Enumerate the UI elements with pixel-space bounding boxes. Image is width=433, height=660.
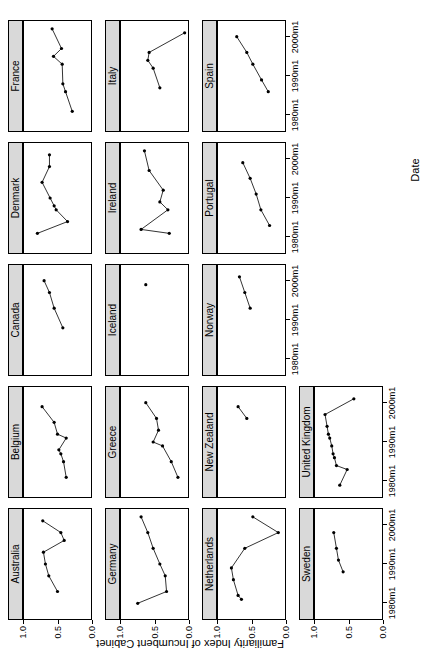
series-line <box>238 407 247 419</box>
panel-iceland: Iceland <box>105 264 189 376</box>
data-point <box>235 35 238 38</box>
series-plot <box>218 265 285 375</box>
data-point <box>335 547 338 550</box>
x-axis-tick-label: 1980m1 <box>387 587 397 620</box>
data-point <box>148 169 151 172</box>
y-axis-tick-label: 0.0 <box>281 626 291 639</box>
data-point <box>168 232 171 235</box>
data-point <box>61 82 64 85</box>
y-axis-tick-label: 1.0 <box>115 626 125 639</box>
data-point <box>158 200 161 203</box>
data-point <box>166 208 169 211</box>
data-point <box>61 63 64 66</box>
x-axis-tick-label: 1980m1 <box>290 221 300 254</box>
y-axis-tick-label: 0.5 <box>150 626 160 639</box>
series-line <box>138 517 167 603</box>
series-line <box>37 155 67 234</box>
series-plot <box>121 265 188 375</box>
series-plot <box>24 143 91 253</box>
plot-area <box>217 386 286 498</box>
x-axis-title: Date <box>409 158 421 181</box>
y-axis-tick <box>155 620 156 624</box>
data-point <box>65 436 68 439</box>
data-point <box>259 208 262 211</box>
data-point <box>152 67 155 70</box>
data-point <box>255 192 258 195</box>
data-point <box>53 204 56 207</box>
data-point <box>144 401 147 404</box>
panel-australia: Australia <box>8 508 92 620</box>
panel-strip-label: Germany <box>108 543 118 584</box>
data-point <box>52 55 55 58</box>
y-axis-tick-label: 0.0 <box>87 626 97 639</box>
data-point <box>325 425 328 428</box>
data-point <box>170 460 173 463</box>
data-point <box>65 476 68 479</box>
data-point <box>62 460 65 463</box>
panel-germany: Germany <box>105 508 189 620</box>
data-point <box>165 590 168 593</box>
data-point <box>136 602 139 605</box>
data-point <box>328 436 331 439</box>
panel-strip-label: Portugal <box>205 179 215 216</box>
y-axis-tick <box>314 620 315 624</box>
data-point <box>240 598 243 601</box>
x-axis-tick-label: 2000m1 <box>290 21 300 54</box>
x-axis-col-5: 1980m11990m12000m1 <box>286 21 304 131</box>
y-axis-tick <box>92 620 93 624</box>
data-point <box>331 452 334 455</box>
data-point <box>41 519 44 522</box>
series-plot <box>121 143 188 253</box>
panel-greece: Greece <box>105 386 189 498</box>
panel-strip-spain: Spain <box>202 20 217 132</box>
data-point <box>237 405 240 408</box>
data-point <box>230 566 233 569</box>
series-line <box>148 33 185 88</box>
series-plot <box>121 509 188 619</box>
series-plot <box>24 265 91 375</box>
data-point <box>56 433 59 436</box>
data-point <box>327 433 330 436</box>
x-axis-tick-label: 1990m1 <box>290 182 300 215</box>
panel-strip-portugal: Portugal <box>202 142 217 254</box>
panel-strip-label: Italy <box>108 67 118 85</box>
data-point <box>56 590 59 593</box>
data-point <box>49 196 52 199</box>
data-point <box>60 47 63 50</box>
y-axis-tick-label: 1.0 <box>18 626 28 639</box>
data-point <box>140 228 143 231</box>
data-point <box>237 594 240 597</box>
panel-strip-label: Sweden <box>302 546 312 582</box>
data-point <box>64 90 67 93</box>
panel-strip-ireland: Ireland <box>105 142 120 254</box>
data-point <box>164 574 167 577</box>
plot-area <box>314 508 383 620</box>
x-axis-col-2: 1980m11990m12000m1 <box>383 387 401 497</box>
series-line <box>44 281 63 328</box>
data-point <box>161 444 164 447</box>
data-point <box>176 476 179 479</box>
data-point <box>43 279 46 282</box>
data-point <box>352 397 355 400</box>
data-point <box>42 551 45 554</box>
data-point <box>40 181 43 184</box>
plot-area <box>120 264 189 376</box>
series-line <box>325 399 354 485</box>
data-point <box>155 417 158 420</box>
series-plot <box>218 509 285 619</box>
panel-sweden: Sweden <box>299 508 383 620</box>
data-point <box>232 578 235 581</box>
data-point <box>44 562 47 565</box>
y-axis-tick-label: 1.0 <box>309 626 319 639</box>
plot-area <box>23 508 92 620</box>
series-plot <box>218 143 285 253</box>
data-point <box>241 161 244 164</box>
data-point <box>268 224 271 227</box>
panel-strip-new-zealand: New Zealand <box>202 386 217 498</box>
panel-strip-australia: Australia <box>8 508 23 620</box>
y-axis-tick <box>23 620 24 624</box>
data-point <box>47 574 50 577</box>
data-point <box>148 51 151 54</box>
y-axis-tick <box>349 620 350 624</box>
data-point <box>36 232 39 235</box>
